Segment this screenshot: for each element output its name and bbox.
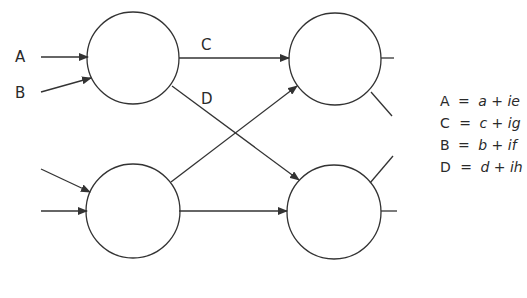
node-bottom-left: [86, 164, 180, 258]
butterfly-diagram: A B C D A = a + ie C = c + ig B = b + if…: [0, 0, 527, 298]
equations: A = a + ie C = c + ig B = b + if D = d +…: [440, 93, 523, 175]
label-c: C: [201, 36, 211, 54]
label-d: D: [201, 90, 213, 108]
label-b: B: [15, 84, 25, 102]
equation-1: A = a + ie: [440, 93, 520, 109]
label-a: A: [15, 48, 26, 66]
node-bottom-right: [287, 165, 381, 259]
equation-4: D = d + ih: [440, 159, 523, 175]
equation-3: B = b + if: [440, 137, 519, 153]
node-top-left: [87, 12, 179, 104]
edge-cross-up: [171, 86, 297, 182]
node-top-right: [289, 13, 381, 105]
input-arrow-3: [41, 169, 90, 192]
output-stub-tr-2: [371, 92, 392, 116]
input-arrow-b: [41, 78, 91, 92]
equation-2: C = c + ig: [440, 115, 521, 131]
output-stub-br-1: [370, 156, 393, 183]
